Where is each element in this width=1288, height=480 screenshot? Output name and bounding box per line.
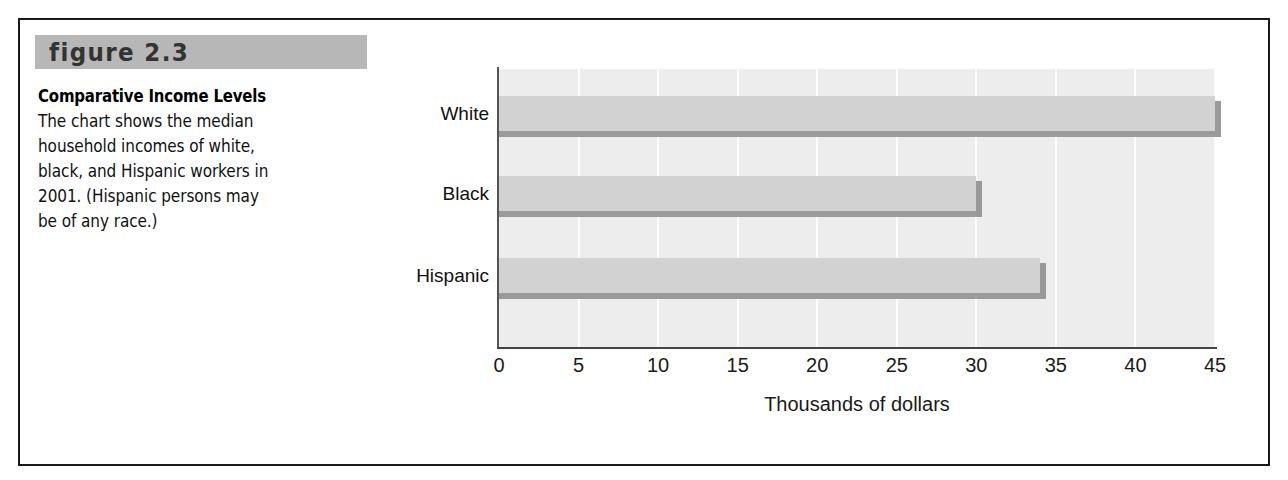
x-tick-label: 15 [715,354,761,377]
bar-hispanic [499,258,1040,293]
x-tick-label: 30 [953,354,999,377]
bar-shadow-hispanic [499,293,1046,299]
figure-frame: figure 2.3 Comparative Income Levels The… [18,18,1270,466]
figure-caption-column: figure 2.3 Comparative Income Levels The… [35,35,387,234]
category-label-white: White [394,103,489,125]
figure-title: Comparative Income Levels [38,86,345,106]
figure-number-band: figure 2.3 [35,35,367,69]
x-tick-label: 45 [1192,354,1238,377]
x-tick-label: 25 [874,354,920,377]
x-tick-label: 20 [794,354,840,377]
x-tick-label: 10 [635,354,681,377]
figure-description-line: household incomes of white, [38,134,362,159]
x-tick-label: 35 [1033,354,1079,377]
x-tick-label: 0 [476,354,522,377]
x-tick-label: 40 [1112,354,1158,377]
figure-description-line: The chart shows the median [38,109,362,134]
category-label-black: Black [394,183,489,205]
figure-description-line: be of any race.) [38,209,362,234]
x-axis-line [497,347,1217,349]
bar-edge-black [976,181,982,216]
bar-white [499,96,1215,131]
bar-shadow-white [499,131,1221,137]
figure-number-label: figure 2.3 [49,36,189,69]
x-tick-label: 5 [556,354,602,377]
figure-description-line: black, and Hispanic workers in [38,159,362,184]
x-axis-title: Thousands of dollars [497,393,1217,416]
bar-edge-hispanic [1040,263,1046,298]
bar-shadow-black [499,211,982,217]
bar-black [499,176,976,211]
figure-description-line: 2001. (Hispanic persons may [38,184,362,209]
category-label-hispanic: Hispanic [394,265,489,287]
bar-chart: WhiteBlackHispanic 051015202530354045 Th… [400,50,1250,440]
figure-description: The chart shows the median household inc… [38,109,362,234]
bar-edge-white [1215,101,1221,136]
